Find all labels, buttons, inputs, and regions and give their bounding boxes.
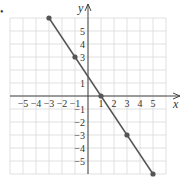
y-tick-label: −2 (74, 117, 85, 128)
axes (10, 4, 180, 174)
y-tick-label: −4 (74, 143, 85, 154)
y-tick-label: 1 (80, 78, 85, 89)
y-tick-label: 4 (80, 39, 85, 50)
y-tick-label: 3 (80, 52, 85, 63)
data-point (72, 54, 77, 59)
x-tick-label: 2 (112, 98, 117, 109)
data-point (98, 93, 103, 98)
x-axis-label: x (172, 97, 179, 111)
x-tick-label: −5 (18, 98, 29, 109)
y-tick-label: −3 (74, 130, 85, 141)
x-tick-label: 4 (138, 98, 143, 109)
y-axis-label: y (77, 1, 84, 15)
y-tick-label: −5 (74, 156, 85, 167)
x-tick-label: 5 (151, 98, 156, 109)
line-graph: −5−4−3−2−1123455431−1−2−3−4−5 • x y (0, 0, 182, 180)
bullet-marker: • (0, 6, 4, 17)
x-tick-label: −4 (31, 98, 42, 109)
data-point (150, 171, 155, 176)
x-tick-label: −2 (57, 98, 68, 109)
y-tick-label: 5 (80, 26, 85, 37)
x-tick-label: −3 (44, 98, 55, 109)
data-point (46, 15, 51, 20)
x-tick-label: 3 (125, 98, 130, 109)
y-tick-label: −1 (74, 104, 85, 115)
data-point (124, 132, 129, 137)
